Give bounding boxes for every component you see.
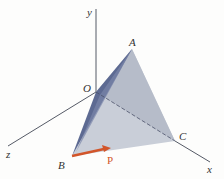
vertex-c-label: C bbox=[179, 130, 187, 142]
vertex-a-label: A bbox=[128, 36, 136, 48]
x-axis-label: x bbox=[206, 163, 212, 175]
origin-label: O bbox=[83, 82, 91, 94]
force-p-label: P bbox=[107, 154, 113, 166]
tetrahedron-diagram: y z x O A B C P bbox=[0, 0, 224, 179]
x-axis bbox=[175, 141, 210, 162]
vertex-b-label: B bbox=[58, 159, 65, 171]
z-axis-label: z bbox=[5, 148, 11, 160]
y-axis-label: y bbox=[86, 6, 92, 18]
